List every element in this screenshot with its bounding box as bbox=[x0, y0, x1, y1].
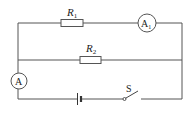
resistor-r2 bbox=[80, 57, 101, 64]
resistor-r1 bbox=[61, 20, 83, 27]
a-label: A bbox=[15, 76, 23, 87]
switch-label: S bbox=[126, 83, 132, 94]
a1-label: A1 bbox=[141, 18, 151, 30]
r2-label: R2 bbox=[85, 42, 97, 56]
r1-label: R1 bbox=[66, 6, 78, 20]
circuit-diagram: R1 A1 R2 A S bbox=[0, 0, 187, 115]
